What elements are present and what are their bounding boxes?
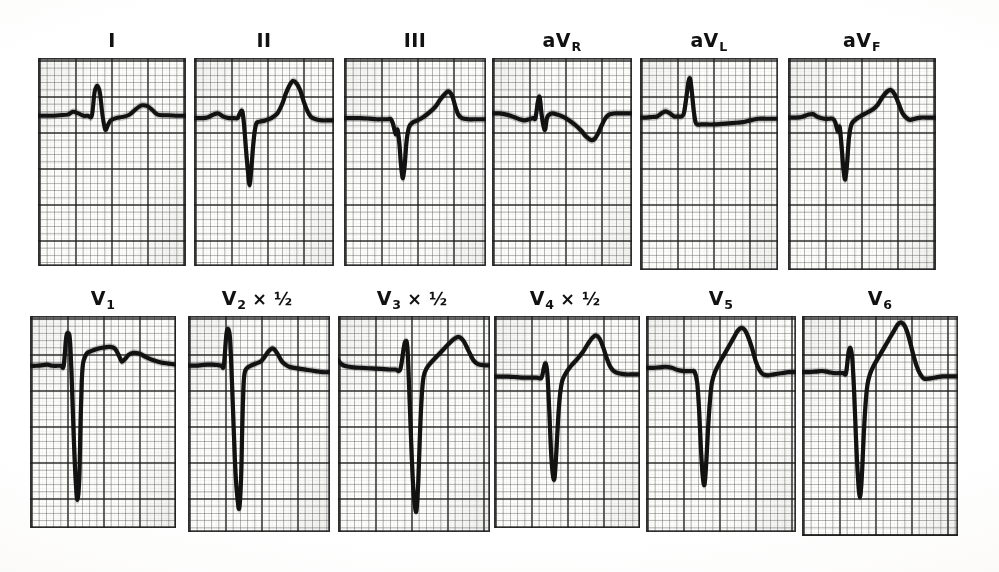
ecg-strip-v5 — [646, 316, 796, 532]
ecg-figure: IIIIIIaVRaVLaVF V1V2× ½V3× ½V4× ½V5V6 — [0, 0, 999, 572]
lead-label-base: V — [222, 289, 237, 308]
lead-label-avf: aVF — [843, 26, 881, 50]
lead-panel-v1: V1 — [30, 284, 176, 554]
lead-label-base: aV — [543, 31, 571, 50]
ecg-strip-avr — [492, 58, 632, 266]
ecg-strip-iii — [344, 58, 486, 266]
lead-label-v5: V5 — [709, 284, 734, 308]
lead-label-i: I — [108, 26, 115, 50]
lead-label-base: II — [257, 31, 272, 50]
lead-label-base: I — [108, 31, 115, 50]
lead-panel-v4: V4× ½ — [494, 284, 640, 554]
precordial-lead-row: V1V2× ½V3× ½V4× ½V5V6 — [0, 284, 999, 554]
lead-label-subscript: 5 — [724, 299, 733, 312]
ecg-grid — [802, 316, 958, 536]
lead-label-subscript: 6 — [883, 299, 892, 312]
ecg-strip-v2 — [188, 316, 330, 532]
lead-label-avr: aVR — [543, 26, 582, 50]
ecg-grid — [188, 316, 330, 532]
lead-panel-avf: aVF — [788, 26, 936, 278]
lead-label-base: aV — [843, 31, 871, 50]
lead-label-base: V — [530, 289, 545, 308]
lead-label-iii: III — [404, 26, 426, 50]
lead-label-subscript: 4 — [545, 299, 554, 312]
lead-label-base: III — [404, 31, 426, 50]
lead-label-base: aV — [690, 31, 718, 50]
ecg-grid — [494, 316, 640, 528]
lead-scale-note: × ½ — [560, 291, 600, 308]
ecg-strip-i — [38, 58, 186, 266]
lead-label-base: V — [709, 289, 724, 308]
ecg-grid — [788, 58, 936, 270]
ecg-strip-v3 — [338, 316, 490, 532]
lead-panel-avr: aVR — [492, 26, 632, 278]
lead-label-base: V — [377, 289, 392, 308]
ecg-grid — [194, 58, 334, 266]
lead-panel-iii: III — [344, 26, 486, 278]
lead-label-base: V — [868, 289, 883, 308]
limb-lead-row: IIIIIIaVRaVLaVF — [0, 26, 999, 278]
lead-label-v6: V6 — [868, 284, 893, 308]
lead-panel-i: I — [38, 26, 186, 278]
ecg-grid — [344, 58, 486, 266]
lead-label-v4: V4× ½ — [530, 284, 605, 308]
ecg-strip-v6 — [802, 316, 958, 536]
lead-label-base: V — [91, 289, 106, 308]
ecg-grid — [38, 58, 186, 266]
lead-panel-ii: II — [194, 26, 334, 278]
lead-scale-note: × ½ — [252, 291, 292, 308]
lead-label-v3: V3× ½ — [377, 284, 452, 308]
ecg-strip-avf — [788, 58, 936, 270]
ecg-strip-avl — [640, 58, 778, 270]
ecg-grid — [30, 316, 176, 528]
lead-label-subscript: R — [571, 41, 581, 54]
lead-label-v2: V2× ½ — [222, 284, 297, 308]
ecg-grid — [640, 58, 778, 270]
lead-panel-v2: V2× ½ — [188, 284, 330, 554]
ecg-grid — [492, 58, 632, 266]
lead-label-ii: II — [257, 26, 272, 50]
ecg-strip-v1 — [30, 316, 176, 528]
ecg-strip-v4 — [494, 316, 640, 528]
lead-label-avl: aVL — [690, 26, 727, 50]
lead-label-subscript: 2 — [237, 299, 246, 312]
lead-label-subscript: L — [719, 41, 727, 54]
lead-panel-v6: V6 — [802, 284, 958, 554]
lead-label-subscript: 3 — [392, 299, 401, 312]
lead-label-subscript: F — [872, 41, 881, 54]
lead-scale-note: × ½ — [407, 291, 447, 308]
ecg-grid — [338, 316, 490, 532]
lead-panel-v5: V5 — [646, 284, 796, 554]
lead-panel-avl: aVL — [640, 26, 778, 278]
ecg-strip-ii — [194, 58, 334, 266]
lead-panel-v3: V3× ½ — [338, 284, 490, 554]
lead-label-v1: V1 — [91, 284, 116, 308]
lead-label-subscript: 1 — [106, 299, 115, 312]
ecg-grid — [646, 316, 796, 532]
